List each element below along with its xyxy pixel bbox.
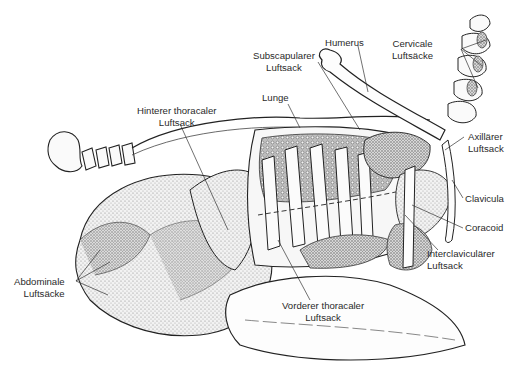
label-subscapular-air-sac: Subscapularer Luftsack (253, 50, 315, 74)
cervical-vertebrae (448, 15, 490, 123)
tail-vertebrae (48, 132, 135, 172)
label-anterior-thoracic-air-sac: Vorderer thoracaler Luftsack (282, 300, 364, 324)
label-clavicula: Clavicula (465, 193, 504, 205)
air-sac-anatomy-diagram: Humerus Cervicale Luftsäcke Subscapulare… (0, 0, 517, 372)
label-posterior-thoracic-air-sac: Hinterer thoracaler Luftsack (137, 105, 216, 129)
label-interclavicular-air-sac: Interclaviculärer Luftsack (427, 248, 495, 272)
label-coracoid: Coracoid (465, 222, 503, 234)
label-cervical-air-sacs: Cervicale Luftsäcke (392, 38, 433, 62)
label-lung: Lunge (262, 92, 289, 104)
label-humerus: Humerus (325, 37, 364, 49)
label-axillary-air-sac: Axillärer Luftsack (468, 131, 504, 155)
coracoid-bone (403, 166, 415, 268)
label-abdominal-air-sacs: Abdominale Luftsäcke (14, 276, 65, 300)
